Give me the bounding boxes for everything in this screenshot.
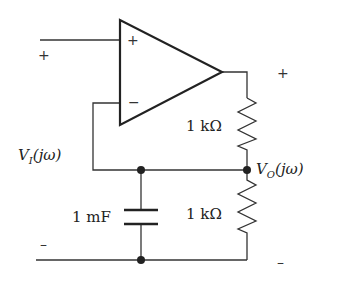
circuit-diagram: + − + – + – VI(jω) VO(jω) 1 kΩ 1 kΩ 1 mF <box>0 0 339 284</box>
vo-main: V <box>256 160 267 178</box>
resistor-bottom-label: 1 kΩ <box>186 207 222 222</box>
vi-main: V <box>18 146 29 164</box>
input-minus-label: – <box>40 237 47 251</box>
circuit-schematic <box>0 0 339 284</box>
vi-arg: (jω) <box>33 146 62 164</box>
output-wire <box>222 72 247 98</box>
vo-sub: O <box>267 169 275 180</box>
input-voltage-label: VI(jω) <box>18 148 61 163</box>
node-dot <box>243 166 251 174</box>
vi-sub: I <box>29 155 33 166</box>
feedback-wire <box>93 103 141 170</box>
node-dot <box>137 256 145 264</box>
node-dot <box>137 166 145 174</box>
opamp-minus-label: − <box>128 95 140 109</box>
resistor-top-label: 1 kΩ <box>186 119 222 134</box>
opamp-plus-label: + <box>127 33 139 47</box>
output-plus-label: + <box>277 66 289 80</box>
vo-arg: (jω) <box>275 160 304 178</box>
output-voltage-label: VO(jω) <box>256 162 304 177</box>
resistor-top-icon <box>238 98 256 170</box>
output-minus-label: – <box>277 255 284 269</box>
capacitor-label: 1 mF <box>72 210 111 225</box>
input-plus-label: + <box>38 48 50 62</box>
resistor-bottom-icon <box>238 170 256 260</box>
